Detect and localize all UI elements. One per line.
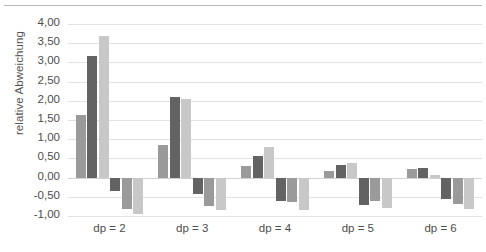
- bar-group: dp = 5: [316, 24, 399, 216]
- bar: [324, 171, 334, 177]
- bar: [407, 169, 417, 177]
- y-axis-tick-label: 2,50: [16, 74, 60, 86]
- bar: [464, 178, 474, 209]
- bar: [370, 178, 380, 202]
- bar: [347, 163, 357, 177]
- x-axis-tick-label: dp = 2: [68, 222, 151, 234]
- plot-area: 4,003,503,002,502,001,501,000,500,00-0,5…: [68, 24, 482, 216]
- bar-group: dp = 3: [151, 24, 234, 216]
- bar: [276, 178, 286, 201]
- y-axis-tick-label: 1,00: [16, 131, 60, 143]
- y-axis-tick-label: 0,50: [16, 150, 60, 162]
- bar: [158, 145, 168, 178]
- y-axis-tick-label: -1,00: [16, 208, 60, 220]
- bar-group: dp = 2: [68, 24, 151, 216]
- bar: [336, 165, 346, 178]
- bar: [430, 175, 440, 177]
- gridline: [68, 216, 482, 217]
- bar: [181, 99, 191, 178]
- bar: [287, 178, 297, 202]
- x-axis-tick-label: dp = 4: [234, 222, 317, 234]
- y-axis-tick-label: 4,00: [16, 16, 60, 28]
- top-divider: [4, 5, 482, 6]
- bar: [382, 178, 392, 208]
- bar: [170, 97, 180, 178]
- y-axis-tick-label: 1,50: [16, 112, 60, 124]
- x-axis-tick-label: dp = 3: [151, 222, 234, 234]
- y-axis-tick-label: 3,00: [16, 54, 60, 66]
- bar: [216, 178, 226, 211]
- bar-chart: relative Abweichung 4,003,503,002,502,00…: [0, 0, 486, 252]
- bar: [133, 178, 143, 214]
- bar: [264, 147, 274, 178]
- bar: [253, 156, 263, 178]
- y-axis-tick-label: -0,50: [16, 189, 60, 201]
- bar: [441, 178, 451, 200]
- y-axis-tick-label: 2,00: [16, 93, 60, 105]
- bar: [76, 115, 86, 178]
- bar: [453, 178, 463, 205]
- bar: [418, 168, 428, 178]
- x-axis-tick-label: dp = 5: [316, 222, 399, 234]
- bar: [204, 178, 214, 206]
- bar-group: dp = 6: [399, 24, 482, 216]
- bar: [193, 178, 203, 194]
- bar: [87, 56, 97, 178]
- x-axis-tick-label: dp = 6: [399, 222, 482, 234]
- y-axis-tick-label: 0,00: [16, 170, 60, 182]
- bar: [110, 178, 120, 192]
- bar-group: dp = 4: [234, 24, 317, 216]
- bar: [299, 178, 309, 210]
- bar: [241, 166, 251, 178]
- y-axis-tick-label: 3,50: [16, 35, 60, 47]
- bar: [359, 178, 369, 206]
- bar: [122, 178, 132, 209]
- bar: [99, 36, 109, 178]
